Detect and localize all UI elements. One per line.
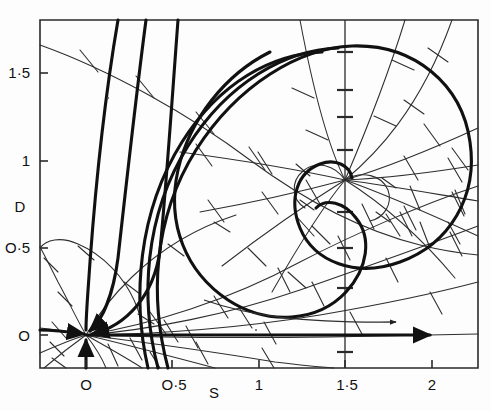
y-tick-label-1: 1: [22, 152, 30, 169]
phase-plane-svg: 1·5 1 O·5 O O O·5 1 1·5 2 D S: [0, 0, 491, 411]
x-axis-ticks: [86, 360, 432, 368]
x-tick-label-2: 2: [428, 376, 436, 393]
x-tick-labels: O O·5 1 1·5 2: [80, 376, 436, 393]
figure-canvas: 1·5 1 O·5 O O O·5 1 1·5 2 D S: [0, 0, 491, 411]
ink-specks: [107, 97, 257, 331]
x-tick-label-0p5: O·5: [161, 376, 186, 393]
x-tick-label-0: O: [80, 376, 92, 393]
x-tick-label-1p5: 1·5: [336, 376, 358, 393]
y-tick-label-1p5: 1·5: [8, 64, 30, 81]
y-tick-label-0p5: O·5: [5, 239, 30, 256]
y-tick-label-0: O: [18, 327, 30, 344]
x-tick-label-1: 1: [255, 376, 263, 393]
y-axis-label: D: [15, 198, 26, 215]
y-axis-ticks: [40, 73, 48, 335]
x-axis-label: S: [209, 384, 219, 401]
incoming-separatrix-3: [92, 20, 178, 334]
